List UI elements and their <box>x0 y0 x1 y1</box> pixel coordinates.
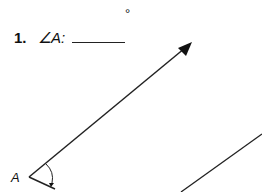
ray-upper <box>29 48 185 177</box>
extra-line <box>181 134 262 192</box>
angle-arc <box>46 164 52 183</box>
angle-figure <box>0 0 262 192</box>
arrowhead-icon <box>178 42 192 56</box>
